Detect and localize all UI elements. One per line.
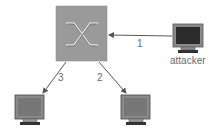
edge-label-1: 1 — [137, 39, 143, 49]
host-right-computer-icon — [121, 95, 150, 125]
attacker-label: attacker — [170, 56, 206, 66]
host-left-computer-icon — [15, 95, 44, 125]
edge-label-2: 2 — [97, 73, 103, 83]
attacker-computer-icon — [173, 24, 203, 53]
arrow-2 — [99, 62, 126, 93]
switch-icon — [56, 6, 107, 61]
edge-label-3: 3 — [58, 73, 64, 83]
arrow-1 — [109, 35, 172, 36]
